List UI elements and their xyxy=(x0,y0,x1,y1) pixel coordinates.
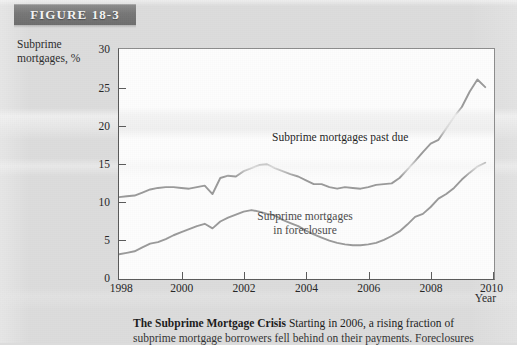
annotation-foreclosure-line2: in foreclosure xyxy=(273,224,337,236)
x-tick-label-2010: 2010 xyxy=(480,282,503,294)
y-tick-mark-15 xyxy=(119,164,126,165)
annotation-foreclosure-line1: Subprime mortgages xyxy=(257,210,353,222)
y-tick-label-10: 10 xyxy=(84,196,110,208)
x-tick-mark-2002 xyxy=(244,272,245,279)
caption-bold-title: The Subprime Mortgage Crisis xyxy=(133,317,286,329)
x-tick-mark-2008 xyxy=(431,272,432,279)
y-tick-label-30: 30 xyxy=(84,43,110,55)
figure-caption: The Subprime Mortgage Crisis Starting in… xyxy=(133,316,503,345)
y-axis-title-line2: mortgages, % xyxy=(17,52,80,64)
y-tick-label-5: 5 xyxy=(84,234,110,246)
x-tick-mark-2006 xyxy=(369,272,370,279)
x-tick-label-2004: 2004 xyxy=(295,282,318,294)
x-tick-mark-2000 xyxy=(182,272,183,279)
y-tick-label-0: 0 xyxy=(84,272,110,284)
x-tick-label-2006: 2006 xyxy=(357,282,380,294)
banner-dropshadow xyxy=(14,25,136,28)
x-tick-label-2008: 2008 xyxy=(420,282,443,294)
figure-number-label: FIGURE 18-3 xyxy=(14,7,136,23)
y-axis-title-line1: Subprime xyxy=(17,38,62,50)
figure-number-banner: FIGURE 18-3 xyxy=(14,4,136,25)
y-tick-mark-20 xyxy=(119,126,126,127)
chart-series-layer xyxy=(119,49,493,278)
x-tick-label-2000: 2000 xyxy=(170,282,193,294)
y-tick-label-15: 15 xyxy=(84,158,110,170)
y-tick-label-20: 20 xyxy=(84,120,110,132)
annotation-in-foreclosure: Subprime mortgagesin foreclosure xyxy=(257,210,353,237)
caption-line2: subprime mortgage borrowers fell behind … xyxy=(133,331,503,345)
series-line-in-foreclosure xyxy=(119,163,485,255)
y-tick-label-25: 25 xyxy=(84,82,110,94)
x-tick-mark-2010 xyxy=(493,272,494,279)
x-tick-label-1998: 1998 xyxy=(110,282,133,294)
x-tick-mark-2004 xyxy=(306,272,307,279)
y-tick-mark-5 xyxy=(119,240,126,241)
annotation-past-due: Subprime mortgages past due xyxy=(272,131,408,145)
chart-plot-area xyxy=(118,48,495,280)
y-tick-mark-25 xyxy=(119,88,126,89)
caption-line1: Starting in 2006, a rising fraction of xyxy=(286,317,454,329)
x-tick-label-2002: 2002 xyxy=(233,282,256,294)
y-tick-mark-10 xyxy=(119,202,126,203)
